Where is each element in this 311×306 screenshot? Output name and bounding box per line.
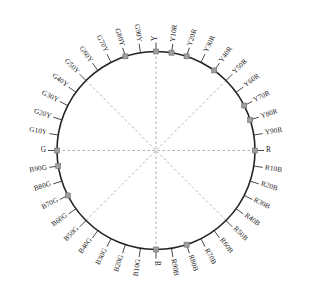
tick-b50g xyxy=(80,221,86,227)
tick-g50y xyxy=(80,74,86,80)
tick-b80g xyxy=(53,181,62,184)
hue-marker-r[interactable] xyxy=(253,148,258,153)
tick-r20b xyxy=(250,181,259,184)
tick-b30g xyxy=(107,239,111,247)
axis-line-135deg xyxy=(86,80,226,220)
tick-r30b xyxy=(244,195,252,199)
hue-marker-y70r[interactable] xyxy=(242,103,247,108)
tick-r70b xyxy=(201,239,205,247)
tick-y60r xyxy=(236,87,243,92)
tick-r90b xyxy=(171,248,172,257)
hue-marker-y80r[interactable] xyxy=(248,117,253,122)
tick-r40b xyxy=(236,209,243,214)
hue-marker-y20r[interactable] xyxy=(184,54,189,59)
tick-r50b xyxy=(226,221,232,227)
hue-marker-y10r[interactable] xyxy=(169,50,174,55)
tick-b10g xyxy=(139,248,140,257)
hue-circle-diagram: YY10RY20RY30RY40RY50RY60RY70RY80RY90RRR1… xyxy=(0,0,311,306)
hue-marker-r80b[interactable] xyxy=(184,242,189,247)
tick-r10b xyxy=(254,166,263,167)
tick-b20g xyxy=(123,245,126,254)
tick-g70y xyxy=(107,54,111,62)
hue-marker-b[interactable] xyxy=(154,247,159,252)
axis-lines-group xyxy=(57,52,255,250)
hue-marker-y[interactable] xyxy=(154,49,159,54)
tick-g20y xyxy=(53,117,62,120)
tick-r60b xyxy=(214,231,219,238)
tick-g90y xyxy=(139,44,140,53)
tick-g30y xyxy=(60,101,68,105)
tick-b40g xyxy=(93,231,98,238)
hue-circle-canvas xyxy=(0,0,311,306)
tick-g60y xyxy=(93,63,98,70)
tick-lines-group xyxy=(48,43,264,259)
tick-y90r xyxy=(254,134,263,135)
tick-b60g xyxy=(69,209,76,214)
hue-marker-g[interactable] xyxy=(55,148,60,153)
hue-marker-b90g[interactable] xyxy=(56,163,61,168)
tick-g40y xyxy=(69,87,76,92)
tick-y30r xyxy=(201,54,205,62)
hue-marker-y40r[interactable] xyxy=(212,68,217,73)
hue-marker-b70g[interactable] xyxy=(65,193,70,198)
tick-g10y xyxy=(49,134,58,135)
tick-y50r xyxy=(226,74,232,80)
axis-line-45deg xyxy=(86,80,226,220)
hue-marker-g80y[interactable] xyxy=(123,54,128,59)
